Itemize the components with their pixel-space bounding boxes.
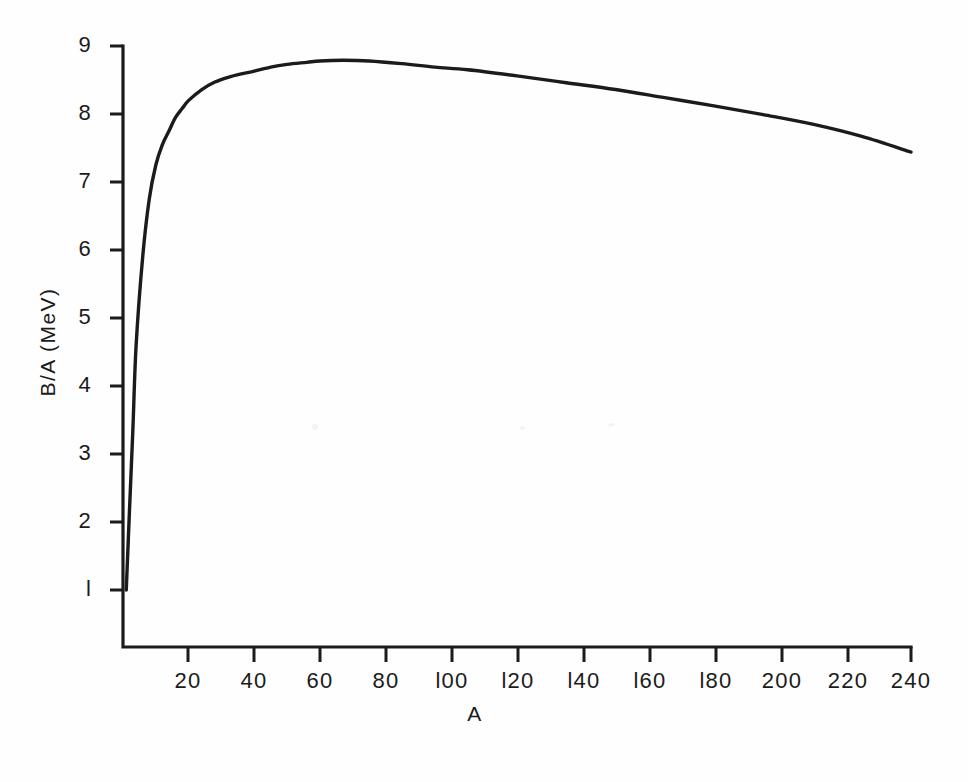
x-axis-ticks bbox=[188, 647, 911, 662]
axis-spine bbox=[123, 46, 911, 647]
x-tick-label-240: 240 bbox=[871, 668, 951, 694]
scan-speck bbox=[312, 424, 318, 430]
y-tick-label-6: 6 bbox=[52, 236, 92, 262]
x-axis-title: A bbox=[435, 702, 515, 726]
scan-speck bbox=[608, 423, 615, 426]
y-axis-title: B/A (MeV) bbox=[36, 262, 60, 422]
plot-area bbox=[0, 0, 968, 782]
y-tick-label-2: 2 bbox=[52, 508, 92, 534]
scan-speck bbox=[520, 426, 525, 430]
y-tick-label-7: 7 bbox=[52, 168, 92, 194]
y-axis-ticks bbox=[110, 46, 123, 590]
y-tick-label-3: 3 bbox=[52, 440, 92, 466]
data-curve bbox=[126, 60, 911, 590]
binding-energy-chart-figure: 9 8 7 6 5 4 3 2 l 20 40 60 80 l00 l20 l4… bbox=[0, 0, 968, 782]
y-tick-label-1: l bbox=[52, 576, 92, 602]
y-tick-label-9: 9 bbox=[52, 32, 92, 58]
y-tick-label-8: 8 bbox=[52, 100, 92, 126]
